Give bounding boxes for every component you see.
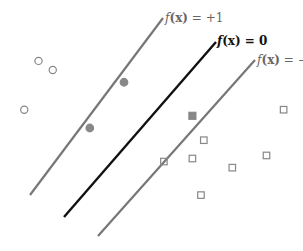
circle-point — [21, 106, 28, 113]
square-point — [229, 164, 236, 171]
class-square-points — [161, 106, 287, 198]
support-vector-square — [189, 112, 196, 119]
square-point — [201, 137, 208, 144]
svm-diagram: f(x) = +1 f(x) = 0 f(x) = −1 — [0, 0, 303, 251]
support-vector-circle — [120, 78, 128, 86]
label-margin-minus: f(x) = −1 — [256, 53, 303, 67]
margin-line-plus — [30, 18, 163, 195]
square-point — [280, 106, 287, 113]
support-vectors — [86, 78, 196, 131]
label-margin-plus: f(x) = +1 — [164, 11, 223, 25]
square-point — [189, 155, 196, 162]
support-vector-circle — [86, 124, 94, 132]
diagram-canvas: f(x) = +1 f(x) = 0 f(x) = −1 — [0, 0, 303, 251]
label-decision-boundary: f(x) = 0 — [216, 34, 267, 48]
square-point — [263, 152, 270, 159]
square-point — [198, 192, 205, 199]
class-circle-points — [21, 57, 57, 113]
circle-point — [49, 66, 56, 73]
circle-point — [35, 57, 42, 64]
